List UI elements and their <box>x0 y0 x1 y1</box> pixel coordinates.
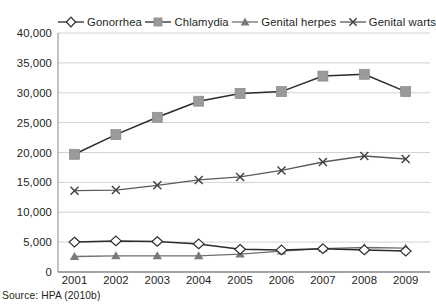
source-note: Source: HPA (2010b) <box>2 290 100 301</box>
plot-area <box>0 0 436 307</box>
x-tick-label: 2004 <box>177 274 221 286</box>
x-tick-label: 2003 <box>135 274 179 286</box>
x-tick-label: 2008 <box>342 274 386 286</box>
x-tick-label: 2005 <box>218 274 262 286</box>
chart-figure: Gonorrhea Chlamydia Genital herpes Genit… <box>0 0 436 307</box>
series-genital-warts <box>71 152 410 195</box>
x-tick-label: 2001 <box>53 274 97 286</box>
series-chlamydia <box>70 69 411 159</box>
x-tick-label: 2002 <box>94 274 138 286</box>
x-tick-label: 2009 <box>384 274 428 286</box>
x-tick-label: 2006 <box>260 274 304 286</box>
series-canvas <box>0 0 436 307</box>
x-tick-label: 2007 <box>301 274 345 286</box>
series-gonorrhea <box>69 236 411 256</box>
